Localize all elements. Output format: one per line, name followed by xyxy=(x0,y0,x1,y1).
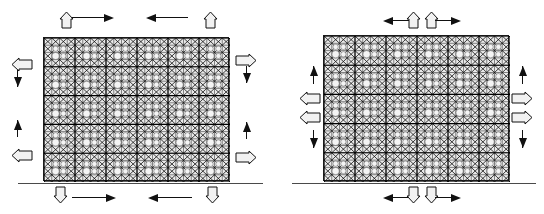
arrow-head xyxy=(383,194,393,202)
bottom-prescribed-down-left xyxy=(406,187,421,203)
left-prescribed-left-upper xyxy=(300,91,320,106)
mesh-hatch xyxy=(324,36,510,182)
left-reaction-down xyxy=(309,122,318,148)
right-figure xyxy=(0,0,544,214)
right-mesh-block xyxy=(323,35,509,181)
top-reaction-right xyxy=(435,16,461,25)
arrow-head xyxy=(383,17,393,25)
left-reaction-up xyxy=(309,66,318,92)
right-reaction-down xyxy=(518,122,527,148)
top-prescribed-up-left xyxy=(406,12,421,28)
right-prescribed-right-upper xyxy=(512,91,532,106)
arrow-head xyxy=(451,17,461,25)
arrow-head xyxy=(519,138,527,148)
right-baseline xyxy=(292,183,536,184)
right-reaction-up xyxy=(518,66,527,92)
diagram-canvas xyxy=(0,0,544,214)
arrow-head xyxy=(310,138,318,148)
arrow-head xyxy=(519,66,527,76)
bottom-reaction-right xyxy=(435,193,461,202)
arrow-head xyxy=(451,194,461,202)
arrow-head xyxy=(310,66,318,76)
